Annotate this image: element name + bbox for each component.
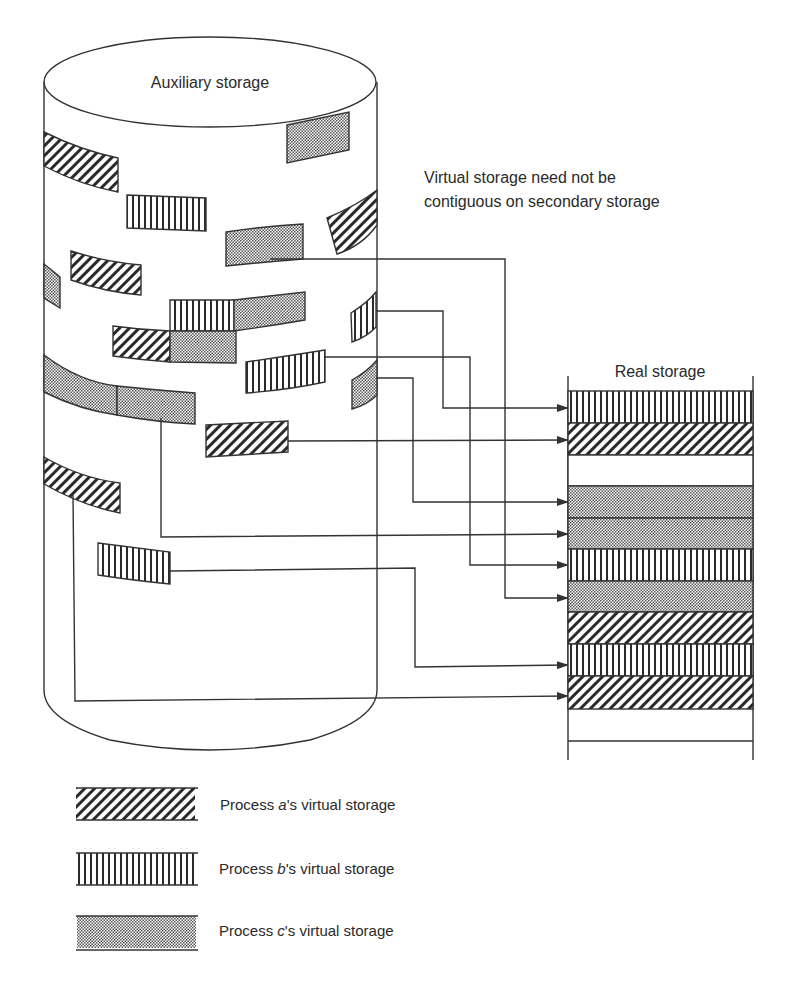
mapping-arrows [73, 259, 568, 701]
arrow-a-to-real [288, 440, 568, 441]
block-c [117, 386, 195, 424]
legend-item-a: Process a's virtual storage [76, 788, 395, 820]
block-a [206, 421, 288, 457]
legend: Process a's virtual storage Process b's … [76, 788, 395, 950]
block-b [170, 300, 234, 331]
real-row-b [568, 549, 753, 581]
real-storage-label: Real storage [615, 363, 706, 380]
legend-label-a: Process a's virtual storage [220, 796, 395, 813]
block-b [98, 543, 170, 584]
real-row-a [568, 612, 753, 644]
block-b [351, 292, 376, 342]
block-a [327, 190, 377, 254]
real-row-empty [568, 455, 753, 486]
virtual-storage-blocks [44, 112, 377, 584]
arrow-a-to-real [73, 495, 568, 701]
legend-label-c: Process c's virtual storage [219, 922, 394, 939]
block-c [234, 292, 305, 331]
arrow-b-to-real [170, 568, 568, 667]
real-row-b [568, 644, 753, 676]
arrow-b-to-real [376, 311, 568, 408]
real-row-c [568, 581, 753, 612]
legend-item-b: Process b's virtual storage [76, 853, 394, 885]
real-storage [568, 376, 753, 760]
block-c [44, 264, 60, 308]
annotation-line-1: Virtual storage need not be [424, 169, 616, 186]
real-row-c [568, 486, 753, 518]
real-row-b [568, 391, 753, 423]
auxiliary-storage-label: Auxiliary storage [151, 74, 269, 91]
legend-label-b: Process b's virtual storage [219, 860, 394, 877]
real-row-a [568, 423, 753, 455]
real-row-c [568, 518, 753, 549]
legend-item-c: Process c's virtual storage [76, 916, 394, 950]
block-a [113, 326, 170, 362]
block-c [170, 331, 236, 363]
storage-diagram: Auxiliary storage Virtual storage need n… [0, 0, 790, 992]
arrow-c-to-real [270, 259, 568, 598]
block-a [44, 457, 120, 513]
block-c [287, 112, 349, 163]
block-b [246, 350, 325, 393]
block-a [71, 251, 141, 295]
block-c [352, 360, 377, 409]
block-a [44, 132, 118, 192]
block-c [44, 355, 117, 415]
real-row-a [568, 676, 753, 709]
block-b [127, 195, 206, 231]
annotation-line-2: contiguous on secondary storage [424, 193, 660, 210]
